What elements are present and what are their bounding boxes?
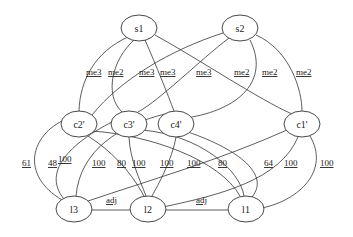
node-label: l1 bbox=[242, 204, 250, 215]
edge-label-text: 100 bbox=[284, 158, 298, 168]
edge-label-l2-l3: adj bbox=[106, 195, 117, 205]
edge-line bbox=[186, 40, 256, 118]
edge-label-c4-l1: 64 bbox=[264, 158, 274, 168]
node-label: c2' bbox=[73, 119, 84, 130]
edge-label-c4-l2: 100 bbox=[160, 158, 174, 168]
edge-label-text: adj bbox=[106, 195, 117, 205]
edge-label-text: me3 bbox=[196, 67, 212, 77]
node-c4: c4' bbox=[158, 111, 194, 137]
node-label: c4' bbox=[170, 119, 181, 130]
edge-label-c4-l3: 100 bbox=[92, 158, 106, 168]
edge-label-text: 80 bbox=[117, 158, 127, 168]
edge-label-c1-l1: 100 bbox=[320, 158, 334, 168]
node-label: l3 bbox=[70, 204, 78, 215]
edge-label-c1-l2: 100 bbox=[284, 158, 298, 168]
edge-label-text: me2 bbox=[108, 67, 124, 77]
edge-label-text: adj bbox=[196, 195, 207, 205]
node-c2: c2' bbox=[61, 111, 97, 137]
edge-label-s1-c2: me3 bbox=[86, 67, 102, 77]
edge-label-c3-l1: 80 bbox=[218, 158, 228, 168]
edge-label-s1-c3: me2 bbox=[108, 67, 124, 77]
edge-label-text: me2 bbox=[234, 67, 250, 77]
edge-s2-c4 bbox=[186, 40, 256, 118]
edge-label-c3-l3: 48 bbox=[48, 158, 58, 168]
edge-label-text: me2 bbox=[296, 67, 312, 77]
node-l2: l2 bbox=[130, 196, 166, 222]
node-c3: c3' bbox=[111, 111, 147, 137]
edge-label-s2-c4: me2 bbox=[262, 67, 278, 77]
edge-label-c1-l3: 100 bbox=[187, 158, 201, 168]
edge-label-text: 48 bbox=[48, 158, 58, 168]
edge-label-c2-l3: 61 bbox=[22, 158, 31, 168]
edge-label-text: me3 bbox=[139, 67, 155, 77]
edge-label-s1-c1: me2 bbox=[234, 67, 250, 77]
edge-line bbox=[163, 137, 298, 207]
edge-line bbox=[262, 136, 316, 208]
node-label: s2 bbox=[236, 23, 245, 34]
edge-label-text: 100 bbox=[92, 158, 106, 168]
edge-label-s2-c3: me3 bbox=[196, 67, 212, 77]
node-l1: l1 bbox=[228, 196, 264, 222]
node-label: c1' bbox=[296, 119, 307, 130]
node-label: c3' bbox=[123, 119, 134, 130]
node-s2: s2 bbox=[222, 15, 258, 41]
edge-label-s1-c4: me3 bbox=[160, 67, 176, 77]
edge-label-text: 100 bbox=[58, 154, 72, 164]
node-label: l2 bbox=[144, 204, 152, 215]
edge-c1-l2 bbox=[163, 137, 298, 207]
edge-label-text: 100 bbox=[187, 158, 201, 168]
edge-c1-l1 bbox=[262, 136, 316, 208]
edge-label-c2-l1: 100 bbox=[58, 154, 72, 164]
edge-label-text: 100 bbox=[160, 158, 174, 168]
edge-label-text: 64 bbox=[264, 158, 274, 168]
node-c1: c1' bbox=[284, 111, 320, 137]
edge-label-l1-l2: adj bbox=[196, 195, 207, 205]
edge-label-text: 80 bbox=[218, 158, 228, 168]
edge-label-s2-c1: me2 bbox=[296, 67, 312, 77]
edge-label-text: me3 bbox=[86, 67, 102, 77]
edge-label-c2-l2: 80 bbox=[117, 158, 127, 168]
edge-label-text: 61 bbox=[22, 158, 31, 168]
node-s1: s1 bbox=[121, 15, 157, 41]
graph-diagram: me3me2me3me2me3me3me2me26148100801001001… bbox=[0, 0, 353, 237]
edge-label-s2-c2: me3 bbox=[139, 67, 155, 77]
node-label: s1 bbox=[135, 23, 144, 34]
edge-label-text: me2 bbox=[262, 67, 278, 77]
node-l3: l3 bbox=[56, 196, 92, 222]
edge-label-text: 100 bbox=[132, 158, 146, 168]
edge-label-c3-l2: 100 bbox=[132, 158, 146, 168]
edge-label-text: 100 bbox=[320, 158, 334, 168]
edge-label-text: me3 bbox=[160, 67, 176, 77]
